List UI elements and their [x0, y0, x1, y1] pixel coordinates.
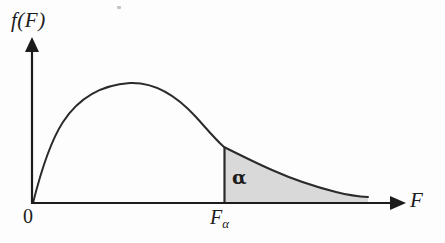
critical-value-label: Fα — [210, 207, 229, 230]
x-axis-arrowhead-icon — [390, 196, 406, 210]
density-curve — [33, 83, 368, 203]
tail-area-label: α — [232, 168, 247, 187]
y-axis-arrowhead-icon — [25, 37, 39, 52]
y-axis-label: f(F) — [11, 10, 46, 31]
origin-label: 0 — [23, 206, 33, 226]
critical-value-subscript: α — [222, 216, 229, 231]
x-axis-label: F — [410, 190, 423, 211]
scan-artifact-speck — [117, 6, 121, 9]
f-distribution-figure: f(F) F 0 Fα α — [0, 0, 445, 243]
critical-value-letter: F — [210, 206, 222, 228]
